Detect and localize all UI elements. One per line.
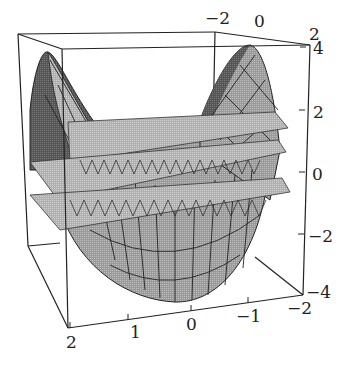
z-tick-0: 0 [312, 164, 323, 184]
x-tick-neg2: −2 [287, 298, 312, 318]
z-tick-neg2: −2 [308, 226, 333, 246]
x-tick-neg1: −1 [236, 306, 261, 326]
x-tick-0: 0 [186, 314, 197, 334]
x-tick-2: 2 [66, 332, 77, 352]
y-tick-neg2: −2 [205, 8, 230, 28]
z-tick-2: 2 [313, 102, 324, 122]
x-tick-1: 1 [130, 322, 141, 342]
y-tick-0: 0 [254, 11, 265, 31]
surface-plot: 4 2 0 −2 −4 −2 0 2 2 1 0 −1 −2 [0, 0, 353, 374]
y-tick-2: 2 [309, 24, 320, 44]
